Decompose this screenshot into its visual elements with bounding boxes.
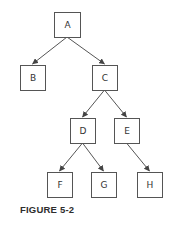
node-d: D (71, 119, 96, 144)
node-label: B (30, 73, 36, 83)
tree-diagram: ABCDEFGH (0, 0, 169, 225)
node-label: E (124, 126, 130, 136)
node-label: G (101, 180, 108, 190)
node-label: D (80, 126, 87, 136)
edge-a-c (67, 37, 105, 64)
nodes: ABCDEFGH (21, 13, 163, 198)
edge-d-f (60, 143, 83, 171)
node-f: F (48, 173, 73, 198)
edge-e-h (127, 143, 150, 171)
node-h: H (138, 173, 163, 198)
edge-a-b (33, 37, 68, 64)
edges (33, 37, 150, 171)
node-label: H (147, 180, 154, 190)
node-c: C (93, 66, 118, 91)
node-b: B (21, 66, 46, 91)
node-a: A (55, 13, 81, 38)
node-label: F (57, 180, 62, 190)
node-e: E (115, 119, 140, 144)
figure-caption: FIGURE 5-2 (20, 204, 74, 215)
node-label: A (64, 20, 71, 30)
edge-c-e (105, 90, 127, 117)
edge-d-g (83, 143, 104, 171)
node-label: C (102, 73, 108, 83)
edge-c-d (83, 90, 105, 117)
node-g: G (92, 173, 117, 198)
